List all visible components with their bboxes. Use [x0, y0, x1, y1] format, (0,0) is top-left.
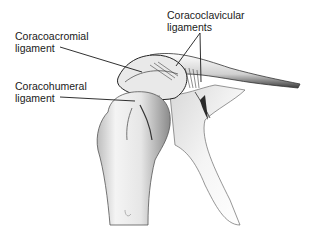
scapula — [170, 85, 245, 225]
label-text: ligament — [15, 42, 89, 54]
label-coracohumeral-ligament: Coracohumeral ligament — [15, 80, 87, 104]
label-text: Coracoclavicular — [167, 9, 245, 21]
label-coracoacromial-ligament: Coracoacromial ligament — [15, 30, 89, 54]
label-text: Coracoacromial — [15, 30, 89, 42]
label-text: ligament — [15, 92, 87, 104]
label-text: Coracohumeral — [15, 80, 87, 92]
label-coracoclavicular-ligaments: Coracoclavicular ligaments — [167, 9, 245, 33]
humerus — [97, 92, 170, 225]
label-text: ligaments — [167, 21, 245, 33]
